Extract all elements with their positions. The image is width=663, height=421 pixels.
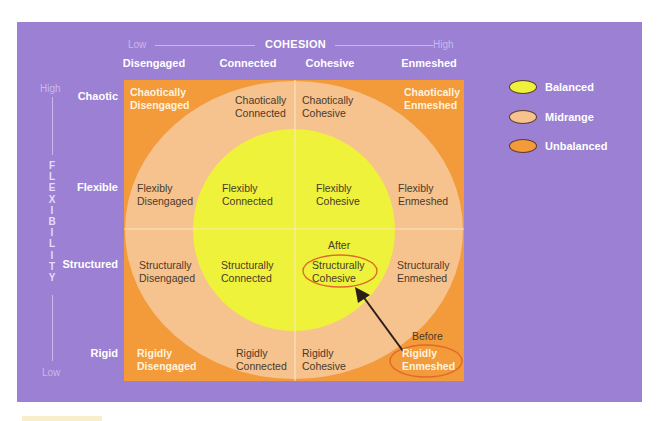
cell-chaotically-cohesive: ChaoticallyCohesive <box>302 94 353 119</box>
cell-line: Structurally <box>312 259 365 272</box>
cell-rigidly-enmeshed: RigidlyEnmeshed <box>402 347 455 372</box>
legend-label-unbalanced: Unbalanced <box>545 140 607 152</box>
cell-line: Flexibly <box>316 182 360 195</box>
cell-line: Connected <box>236 360 287 373</box>
cell-line: Enmeshed <box>397 272 450 285</box>
cell-line: Rigidly <box>302 347 346 360</box>
cell-flexibly-cohesive: FlexiblyCohesive <box>316 182 360 207</box>
cell-flexibly-disengaged: FlexiblyDisengaged <box>137 182 193 207</box>
cell-structurally-enmeshed: StructurallyEnmeshed <box>397 259 450 284</box>
cell-flexibly-connected: FlexiblyConnected <box>222 182 273 207</box>
cell-line: Structurally <box>139 259 195 272</box>
cell-line: Enmeshed <box>398 195 448 208</box>
after-label: After <box>328 239 350 251</box>
cell-line: Flexibly <box>137 182 193 195</box>
cell-line: Flexibly <box>222 182 273 195</box>
cell-line: Connected <box>221 272 274 285</box>
cell-line: Rigidly <box>236 347 287 360</box>
cell-line: Connected <box>235 107 286 120</box>
legend-swatch-balanced <box>509 80 537 94</box>
balanced-region <box>193 129 395 331</box>
cell-line: Flexibly <box>398 182 448 195</box>
legend-swatch-midrange <box>509 110 537 124</box>
cell-rigidly-disengaged: RigidlyDisengaged <box>137 347 197 372</box>
cell-line: Disengaged <box>130 99 190 112</box>
cell-line: Structurally <box>221 259 274 272</box>
cell-line: Chaotically <box>404 86 460 99</box>
cell-line: Cohesive <box>302 107 353 120</box>
cell-rigidly-cohesive: RigidlyCohesive <box>302 347 346 372</box>
cell-chaotically-disengaged: ChaoticallyDisengaged <box>130 86 190 111</box>
cell-structurally-disengaged: StructurallyDisengaged <box>139 259 195 284</box>
before-label: Before <box>412 330 443 342</box>
cell-chaotically-enmeshed: ChaoticallyEnmeshed <box>404 86 460 111</box>
cell-line: Disengaged <box>137 360 197 373</box>
cell-line: Enmeshed <box>402 360 455 373</box>
cell-line: Enmeshed <box>404 99 460 112</box>
cell-line: Structurally <box>397 259 450 272</box>
cell-line: Chaotically <box>130 86 190 99</box>
figure-caption-cutoff <box>22 416 102 421</box>
legend-item-balanced: Balanced <box>509 80 594 94</box>
cell-line: Cohesive <box>312 272 365 285</box>
cell-structurally-connected: StructurallyConnected <box>221 259 274 284</box>
cell-line: Rigidly <box>402 347 455 360</box>
cell-rigidly-connected: RigidlyConnected <box>236 347 287 372</box>
cell-line: Chaotically <box>235 94 286 107</box>
cell-chaotically-connected: ChaoticallyConnected <box>235 94 286 119</box>
cell-line: Disengaged <box>137 195 193 208</box>
cell-line: Cohesive <box>302 360 346 373</box>
cell-line: Cohesive <box>316 195 360 208</box>
legend-item-unbalanced: Unbalanced <box>509 139 607 153</box>
cell-flexibly-enmeshed: FlexiblyEnmeshed <box>398 182 448 207</box>
cell-line: Connected <box>222 195 273 208</box>
cell-line: Rigidly <box>137 347 197 360</box>
legend-item-midrange: Midrange <box>509 110 594 124</box>
cell-structurally-cohesive: StructurallyCohesive <box>312 259 365 284</box>
cell-line: Disengaged <box>139 272 195 285</box>
legend-swatch-unbalanced <box>509 139 537 153</box>
legend-label-balanced: Balanced <box>545 81 594 93</box>
cell-line: Chaotically <box>302 94 353 107</box>
legend-label-midrange: Midrange <box>545 111 594 123</box>
